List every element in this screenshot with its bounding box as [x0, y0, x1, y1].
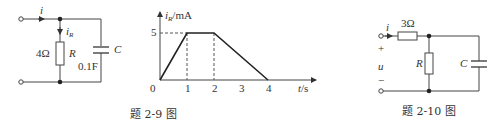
caption-2-10: 题 2-10 图 [402, 105, 456, 118]
caption-2-9: 题 2-9 图 [130, 108, 177, 121]
series-resistor [398, 32, 417, 40]
minus-sign: − [378, 74, 384, 86]
input-terminal-bottom [19, 80, 23, 84]
current-label: i [386, 21, 389, 33]
resistor-name: R [68, 47, 76, 59]
node-dot [427, 89, 432, 94]
capacitor-value: 0.1F [78, 60, 98, 72]
current-label: i [40, 4, 43, 16]
capacitor-name: C [460, 57, 468, 69]
plus-sign: + [378, 42, 384, 54]
x-axis-label: t/s [298, 82, 308, 94]
input-terminal-top [19, 17, 23, 21]
voltage-label: u [378, 60, 384, 72]
x-tick-2: 2 [212, 82, 218, 94]
x-tick-3: 3 [239, 82, 245, 94]
y-tick-5: 5 [151, 26, 157, 38]
node-dot [58, 80, 63, 85]
node-dot [58, 17, 63, 22]
resistor-value: 4Ω [36, 47, 50, 59]
circuit-2-9 [19, 17, 109, 84]
resistor-R [425, 53, 433, 74]
y-axis-label: iR/mA [165, 9, 192, 23]
x-tick-1: 1 [185, 82, 191, 94]
diagram-canvas: i iR 4Ω R 0.1F C iR/mA 5 0 1 2 3 4 t/s 题… [0, 0, 502, 127]
x-tick-4: 4 [266, 82, 272, 94]
node-dot [427, 34, 432, 39]
series-resistor-value: 3Ω [401, 17, 415, 29]
input-terminal-top [379, 34, 383, 38]
x-tick-0: 0 [150, 82, 156, 94]
resistor-R [56, 42, 64, 65]
capacitor-name: C [114, 43, 122, 55]
input-terminal-bottom [379, 89, 383, 93]
waveform-graph [160, 12, 316, 80]
branch-current-label: iR [66, 25, 74, 39]
resistor-name: R [415, 57, 423, 69]
circuit-2-10 [379, 32, 487, 93]
